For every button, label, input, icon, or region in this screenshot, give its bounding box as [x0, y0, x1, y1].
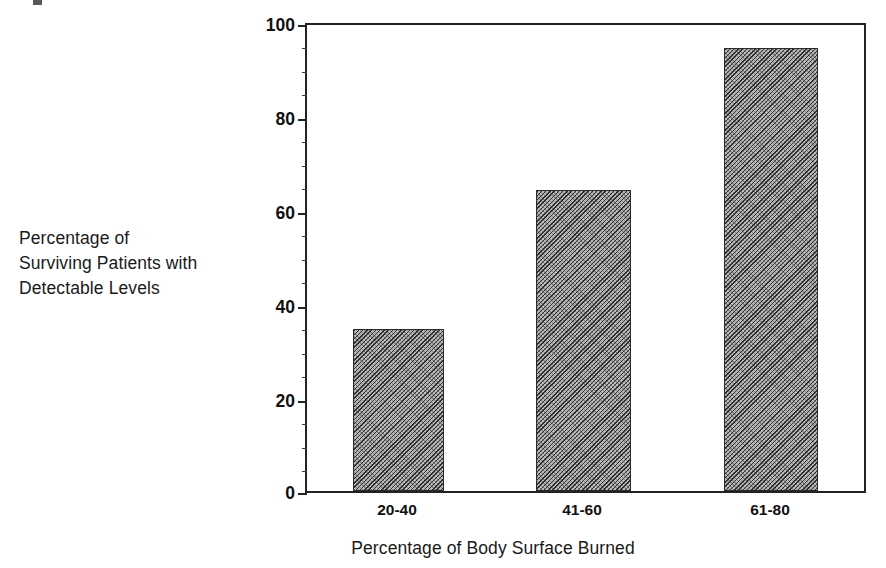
- y-minor-tick-55: [302, 236, 307, 237]
- y-minor-tick-5: [302, 471, 307, 472]
- y-minor-tick-75: [302, 142, 307, 143]
- y-minor-tick-45: [302, 283, 307, 284]
- y-minor-tick-10: [302, 448, 307, 449]
- y-minor-tick-15: [302, 424, 307, 425]
- x-tick-label-2: 41-60: [562, 501, 602, 519]
- x-tick-label-3: 61-80: [750, 501, 790, 519]
- y-minor-tick-95: [302, 48, 307, 49]
- y-axis-label: Percentage of Surviving Patients with De…: [19, 226, 234, 301]
- y-tick-mark-100: [298, 25, 307, 27]
- y-tick-mark-80: [298, 119, 307, 121]
- y-minor-tick-30: [302, 354, 307, 355]
- plot-area: 100 80 60 40 20 0: [305, 23, 866, 493]
- y-tick-label-20: 20: [276, 391, 295, 412]
- y-minor-tick-90: [302, 72, 307, 73]
- y-tick-mark-20: [298, 401, 307, 403]
- bar-20-40[interactable]: [353, 329, 444, 491]
- y-tick-label-100: 100: [266, 15, 295, 36]
- y-tick-mark-60: [298, 213, 307, 215]
- y-axis-label-line-3: Detectable Levels: [19, 276, 234, 301]
- y-tick-label-40: 40: [276, 297, 295, 318]
- x-axis-title-container: Percentage of Body Surface Burned: [0, 538, 886, 559]
- y-tick-label-60: 60: [276, 203, 295, 224]
- x-axis-title: Percentage of Body Surface Burned: [351, 538, 634, 559]
- y-axis-label-line-2: Surviving Patients with: [19, 251, 234, 276]
- y-tick-mark-0: [298, 493, 307, 495]
- bar-61-80[interactable]: [724, 48, 818, 491]
- y-minor-tick-25: [302, 377, 307, 378]
- x-tick-label-1: 20-40: [377, 501, 417, 519]
- y-minor-tick-85: [302, 95, 307, 96]
- y-tick-mark-40: [298, 307, 307, 309]
- y-minor-tick-70: [302, 166, 307, 167]
- y-minor-tick-50: [302, 260, 307, 261]
- y-tick-label-80: 80: [276, 109, 295, 130]
- y-axis-label-line-1: Percentage of: [19, 226, 234, 251]
- bar-41-60[interactable]: [536, 190, 631, 491]
- y-tick-label-0: 0: [285, 483, 295, 504]
- y-minor-tick-65: [302, 189, 307, 190]
- y-minor-tick-35: [302, 330, 307, 331]
- clipped-text-artifact: [33, 0, 42, 5]
- bar-chart-figure: Percentage of Surviving Patients with De…: [0, 0, 886, 568]
